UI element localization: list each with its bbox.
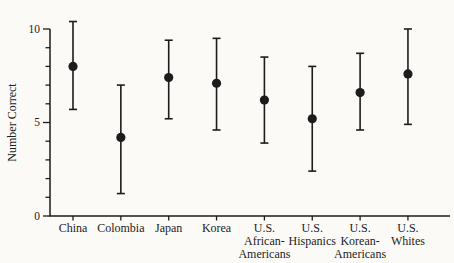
error-bar-point xyxy=(260,57,269,143)
x-category-label: Colombia xyxy=(97,221,145,235)
error-bar-point xyxy=(164,40,173,119)
x-category-label: U.S.Korean-Americans xyxy=(334,221,386,261)
mean-dot xyxy=(164,73,173,82)
mean-dot xyxy=(403,69,412,78)
error-bar-point xyxy=(68,22,77,110)
mean-dot xyxy=(356,88,365,97)
x-category-label: U.S.Hispanics xyxy=(289,221,337,248)
error-bar-point xyxy=(212,38,221,130)
error-bar-chart: 0510Number CorrectChinaColombiaJapanKore… xyxy=(0,0,454,263)
mean-dot xyxy=(116,133,125,142)
mean-dot xyxy=(68,62,77,71)
axes xyxy=(50,29,450,216)
x-category-label: Japan xyxy=(155,221,182,235)
y-tick-label: 0 xyxy=(34,210,40,222)
error-bar-point xyxy=(308,66,317,171)
error-bar-figure: 0510Number CorrectChinaColombiaJapanKore… xyxy=(0,0,454,263)
error-bar-point xyxy=(116,85,125,193)
y-axis-title: Number Correct xyxy=(5,83,19,162)
y-tick-label: 10 xyxy=(29,23,41,35)
y-tick-label: 5 xyxy=(34,116,40,128)
x-category-label: U.S.Whites xyxy=(391,221,425,248)
error-bar-point xyxy=(403,29,412,124)
mean-dot xyxy=(260,95,269,104)
x-category-label: U.S.African-Americans xyxy=(238,221,290,261)
error-bar-point xyxy=(356,53,365,130)
mean-dot xyxy=(308,114,317,123)
x-category-label: Korea xyxy=(202,221,232,235)
mean-dot xyxy=(212,79,221,88)
x-category-label: China xyxy=(59,221,88,235)
